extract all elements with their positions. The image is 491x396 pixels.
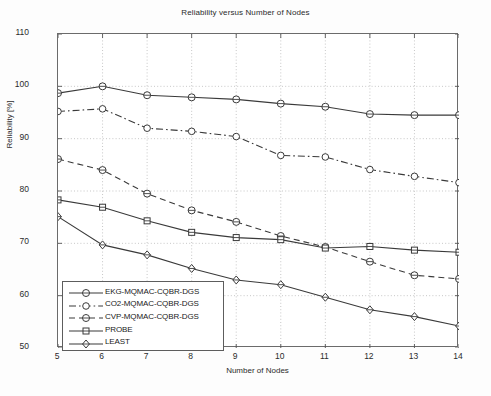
x-tick-label: 8: [179, 351, 203, 361]
legend-label: PROBE: [105, 325, 133, 334]
x-tick-label: 9: [223, 351, 247, 361]
legend-label: CO2-MQMAC-CQBR-DGS: [105, 299, 199, 308]
y-axis-label: Reliability [%]: [5, 85, 14, 165]
y-tick-label: 100: [0, 79, 29, 89]
legend-line-sample: [67, 310, 105, 322]
series-3: [58, 197, 459, 255]
x-tick-label: 12: [357, 351, 381, 361]
x-tick-label: 5: [45, 351, 69, 361]
series-2: [58, 156, 459, 283]
legend-line-sample: [67, 336, 105, 348]
x-tick-label: 14: [446, 351, 470, 361]
y-tick-label: 60: [0, 289, 29, 299]
series-0: [58, 83, 459, 119]
legend-item[interactable]: EKG-MQMAC-CQBR-DGS: [67, 285, 219, 298]
legend-item[interactable]: LEAST: [67, 335, 219, 348]
y-tick-label: 50: [0, 341, 29, 351]
y-tick-label: 90: [0, 132, 29, 142]
series-1: [58, 106, 459, 186]
legend-label: CVP-MQMAC-CQBR-DGS: [105, 312, 199, 321]
x-axis-label: Number of Nodes: [57, 366, 458, 375]
chart-figure: Reliability versus Number of Nodes Relia…: [0, 0, 491, 396]
legend-item[interactable]: CO2-MQMAC-CQBR-DGS: [67, 298, 219, 311]
chart-title: Reliability versus Number of Nodes: [0, 8, 491, 17]
y-tick-label: 80: [0, 184, 29, 194]
y-tick-label: 70: [0, 236, 29, 246]
legend-line-sample: [67, 285, 105, 297]
y-tick-label: 110: [0, 27, 29, 37]
legend-line-sample: [67, 298, 105, 310]
x-tick-label: 6: [90, 351, 114, 361]
x-tick-label: 10: [268, 351, 292, 361]
legend-item[interactable]: PROBE: [67, 323, 219, 336]
chart-legend: EKG-MQMAC-CQBR-DGSCO2-MQMAC-CQBR-DGSCVP-…: [62, 281, 224, 351]
legend-item[interactable]: CVP-MQMAC-CQBR-DGS: [67, 310, 219, 323]
x-tick-label: 13: [401, 351, 425, 361]
x-tick-label: 7: [134, 351, 158, 361]
legend-line-sample: [67, 323, 105, 335]
legend-label: LEAST: [105, 337, 130, 346]
x-tick-label: 11: [312, 351, 336, 361]
legend-label: EKG-MQMAC-CQBR-DGS: [105, 287, 199, 296]
